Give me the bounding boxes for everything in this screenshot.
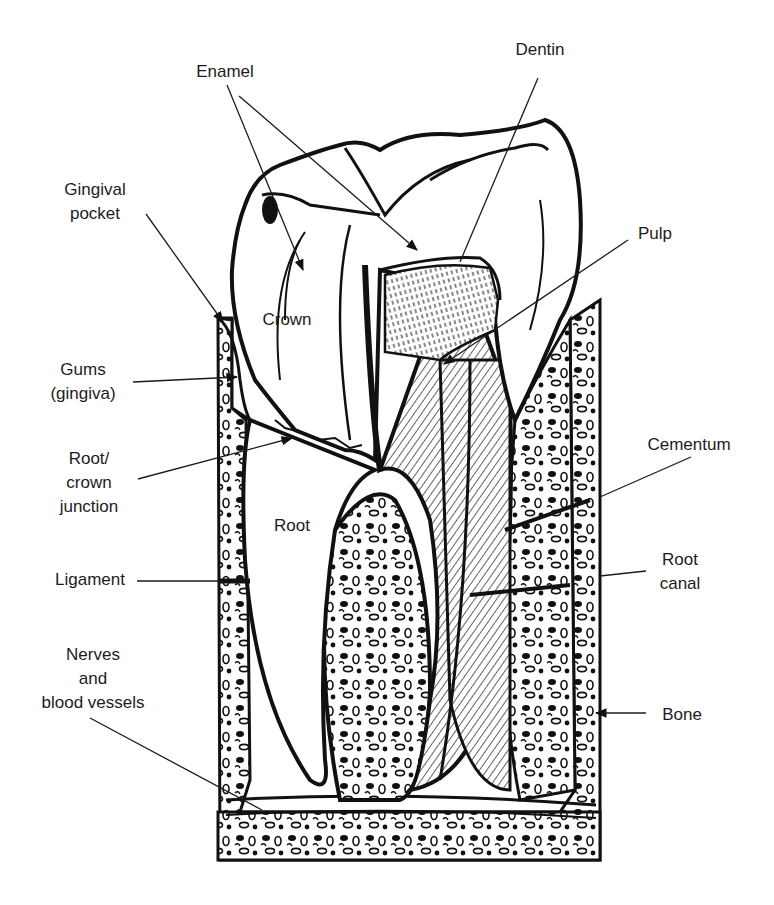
label-crown-text: Crown bbox=[252, 308, 322, 332]
label-root: Root bbox=[262, 514, 322, 538]
label-root-canal: Root canal bbox=[650, 548, 710, 596]
label-enamel: Enamel bbox=[175, 60, 275, 84]
label-line: pocket bbox=[50, 202, 140, 226]
label-dentin-text: Dentin bbox=[495, 38, 585, 62]
interradicular-bone bbox=[324, 494, 430, 800]
label-line: Gums bbox=[38, 358, 128, 382]
label-line: blood vessels bbox=[28, 691, 158, 715]
label-line: Nerves bbox=[28, 643, 158, 667]
label-gums: Gums (gingiva) bbox=[38, 358, 128, 406]
label-crown: Crown bbox=[252, 308, 322, 332]
label-ligament: Ligament bbox=[40, 568, 140, 592]
label-root-text: Root bbox=[262, 514, 322, 538]
label-ligament-text: Ligament bbox=[40, 568, 140, 592]
label-pulp: Pulp bbox=[625, 222, 685, 246]
label-line: (gingiva) bbox=[38, 382, 128, 406]
label-cementum-text: Cementum bbox=[634, 433, 744, 457]
label-enamel-text: Enamel bbox=[175, 60, 275, 84]
label-bone: Bone bbox=[652, 703, 712, 727]
label-line: junction bbox=[44, 495, 134, 519]
label-root-crown-junction: Root/ crown junction bbox=[44, 447, 134, 519]
label-pulp-text: Pulp bbox=[625, 222, 685, 246]
tooth-anatomy-diagram: Enamel Dentin Gingival pocket Pulp Crown… bbox=[0, 0, 774, 905]
label-line: Gingival bbox=[50, 178, 140, 202]
label-bone-text: Bone bbox=[652, 703, 712, 727]
label-gingival-pocket: Gingival pocket bbox=[50, 178, 140, 226]
label-line: Root/ bbox=[44, 447, 134, 471]
label-cementum: Cementum bbox=[634, 433, 744, 457]
label-line: canal bbox=[650, 572, 710, 596]
label-line: crown bbox=[44, 471, 134, 495]
label-dentin: Dentin bbox=[495, 38, 585, 62]
label-nerves-blood-vessels: Nerves and blood vessels bbox=[28, 643, 158, 715]
label-line: and bbox=[28, 667, 158, 691]
label-line: Root bbox=[650, 548, 710, 572]
